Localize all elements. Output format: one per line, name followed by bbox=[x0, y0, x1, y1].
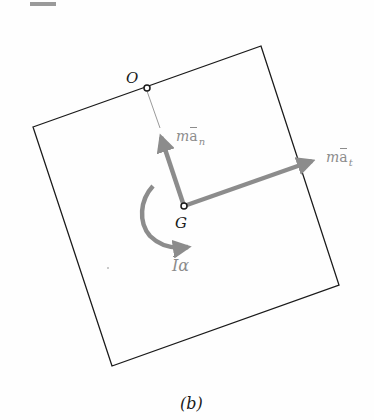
point-O-marker bbox=[144, 85, 150, 91]
tangential-subscript: t bbox=[349, 157, 353, 168]
tangential-inertia-vector-arrow bbox=[184, 161, 312, 206]
angular-acceleration-symbol: α bbox=[178, 256, 189, 275]
acceleration-symbol: a bbox=[189, 129, 197, 143]
line-O-to-G bbox=[147, 91, 160, 128]
moment-of-inertia-symbol: I bbox=[172, 258, 178, 274]
header-bar bbox=[30, 2, 56, 6]
normal-inertia-vector-arrow bbox=[161, 137, 184, 206]
normal-subscript: n bbox=[199, 136, 205, 147]
diagram-graphics bbox=[0, 0, 374, 420]
speck bbox=[107, 267, 109, 269]
inertia-couple-label: Iα bbox=[172, 258, 189, 274]
acceleration-symbol: a bbox=[339, 150, 347, 164]
normal-inertia-label: man bbox=[176, 129, 205, 147]
figure-caption: (b) bbox=[180, 396, 203, 412]
point-G-marker bbox=[181, 203, 187, 209]
mass-symbol: m bbox=[176, 128, 189, 144]
point-O-label: O bbox=[126, 71, 138, 86]
tangential-inertia-label: mat bbox=[326, 150, 353, 168]
kinetic-diagram-figure: O G man mat Iα (b) bbox=[0, 0, 374, 420]
point-G-label: G bbox=[175, 216, 187, 231]
mass-symbol: m bbox=[326, 149, 339, 165]
